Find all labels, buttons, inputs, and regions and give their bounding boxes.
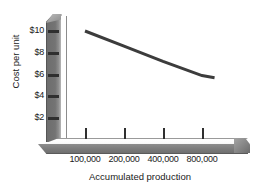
data-line-layer xyxy=(0,0,260,192)
data-series-line xyxy=(85,31,215,78)
learning-curve-chart: $10$8$6$4$2 Cost per unit 100,000200,000… xyxy=(0,0,260,192)
